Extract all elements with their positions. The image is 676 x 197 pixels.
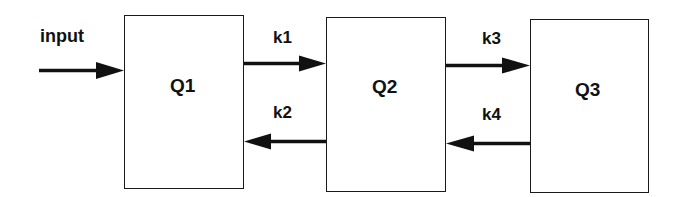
edge-k3-arrow [446, 58, 530, 74]
node-q1-box [124, 15, 244, 189]
node-q2-label: Q2 [372, 77, 397, 96]
node-q3-label: Q3 [575, 80, 600, 99]
compartment-diagram: input Q1 Q2 Q3 k1 k2 k3 k4 [0, 0, 676, 197]
node-q2-box [326, 17, 446, 192]
edge-k3-label: k3 [482, 30, 501, 47]
edge-k2-arrow [244, 134, 326, 150]
edge-k2-label: k2 [273, 104, 292, 121]
edge-k4-arrow [446, 136, 530, 152]
node-q3-box [530, 19, 649, 193]
edge-k1-arrow [244, 56, 326, 72]
input-arrow [39, 62, 124, 79]
edge-k4-label: k4 [482, 106, 501, 123]
input-label: input [40, 27, 84, 45]
node-q1-label: Q1 [170, 76, 195, 95]
edge-k1-label: k1 [273, 29, 292, 46]
